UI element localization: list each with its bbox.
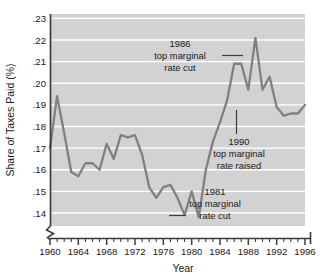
x-axis-tick-label: 1992	[266, 246, 287, 257]
x-axis-tick-label: 1980	[181, 246, 202, 257]
annotation-1981-line3: rate cut	[199, 210, 231, 221]
annotation-1981-line1: 1981	[205, 186, 226, 197]
x-axis-title: Year	[172, 262, 194, 274]
y-axis-tick-label: .17	[33, 143, 46, 154]
annotation-1986-line2: top marginal	[154, 50, 206, 61]
x-axis-tick-label: 1976	[153, 246, 174, 257]
annotation-1990-line2: top marginal	[213, 148, 265, 159]
y-axis-tick-label: .15	[33, 186, 46, 197]
x-axis-tick-label: 1988	[238, 246, 259, 257]
y-axis-tick-labels: .14.15.16.17.18.19.20.21.22.23	[33, 13, 47, 219]
y-axis-tick-label: .20	[33, 78, 46, 89]
y-axis-tick-label: .21	[33, 56, 46, 67]
y-axis-tick-label: .18	[33, 121, 46, 132]
y-axis-tick-label: .16	[33, 164, 46, 175]
x-axis-tick-label: 1972	[124, 246, 145, 257]
x-axis-tick-label: 1960	[39, 246, 60, 257]
y-axis-tick-label: .23	[33, 13, 46, 24]
y-axis-tick-label: .14	[33, 208, 47, 219]
x-axis-tick-label: 1964	[68, 246, 90, 257]
x-axis-tick-label: 1984	[209, 246, 231, 257]
annotation-1990-line3: rate raised	[217, 160, 261, 171]
annotation-1986-line1: 1986	[170, 38, 191, 49]
x-axis-tick-label: 1968	[96, 246, 117, 257]
y-axis-tick-label: .19	[33, 99, 46, 110]
annotation-1990-line1: 1990	[229, 136, 250, 147]
chart-canvas: .14.15.16.17.18.19.20.21.22.23 196019641…	[0, 0, 323, 279]
annotation-1986-line3: rate cut	[164, 62, 196, 73]
x-axis-ticks	[50, 239, 305, 246]
y-axis-tick-label: .22	[33, 35, 46, 46]
x-axis-tick-label: 1996	[294, 246, 315, 257]
x-axis-tick-labels: 1960196419681972197619801984198819921996	[39, 246, 315, 257]
y-axis-title: Share of Taxes Paid (%)	[4, 63, 16, 176]
annotation-1981-line2: top marginal	[189, 198, 241, 209]
chart-figure: .14.15.16.17.18.19.20.21.22.23 196019641…	[0, 0, 323, 279]
